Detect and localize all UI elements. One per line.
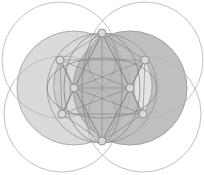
- vertex-node-mid-left: middle left vertex: [70, 84, 78, 92]
- vertex-node-lower-left: lower left vertex: [58, 110, 66, 118]
- vertex-node-lower-right: lower right vertex: [139, 110, 147, 118]
- geometry-svg: Overlapping circles geometric constructi…: [0, 0, 204, 175]
- vertex-node-top: top vertex: [98, 29, 106, 37]
- vertex-node-upper-right: upper right vertex: [141, 56, 149, 64]
- geometric-figure-canvas: Overlapping circles geometric constructi…: [0, 0, 204, 175]
- vertex-node-upper-left: upper left vertex: [56, 56, 64, 64]
- vertex-node-bottom: bottom vertex: [98, 137, 106, 145]
- vertex-node-mid-right: middle right vertex: [126, 84, 134, 92]
